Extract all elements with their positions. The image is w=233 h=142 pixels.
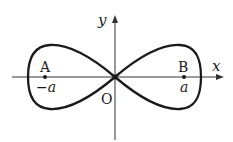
point-a-label: A — [39, 59, 51, 75]
origin-label: O — [101, 91, 112, 107]
x-axis-label: x — [212, 57, 221, 75]
lemniscate-diagram: y x O A −a B a — [0, 0, 233, 142]
point-b-coord-label: a — [180, 79, 188, 95]
origin-point — [113, 75, 118, 80]
point-a-coord-label: −a — [36, 79, 56, 95]
y-axis-label: y — [97, 11, 107, 29]
y-axis-arrow-icon — [112, 15, 118, 23]
point-b-label: B — [178, 59, 188, 75]
